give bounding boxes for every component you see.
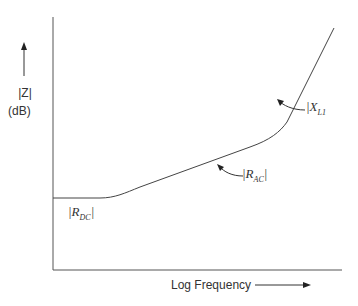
label-xl1: |XL1 bbox=[306, 99, 326, 117]
xl-sub: L1 bbox=[318, 108, 326, 117]
y-arrow-head-icon bbox=[21, 42, 27, 50]
rac-main: R bbox=[246, 166, 254, 181]
y-axis-unit: (dB) bbox=[8, 104, 31, 118]
xl-arrow-icon bbox=[277, 99, 284, 106]
x-arrow-head-icon bbox=[303, 282, 311, 288]
y-label-z: |Z| bbox=[16, 86, 34, 100]
rdc-sub: DC bbox=[80, 213, 91, 222]
impedance-curve bbox=[53, 28, 334, 198]
y-axis-label: |Z| bbox=[16, 86, 34, 100]
rac-sub: AC bbox=[254, 175, 264, 184]
xl-main: X bbox=[310, 99, 318, 114]
impedance-diagram bbox=[0, 0, 358, 306]
rdc-main: R bbox=[72, 204, 80, 219]
label-rac: |RAC| bbox=[242, 166, 267, 184]
label-rdc: |RDC| bbox=[68, 204, 94, 222]
x-axis-label: Log Frequency bbox=[171, 278, 251, 292]
